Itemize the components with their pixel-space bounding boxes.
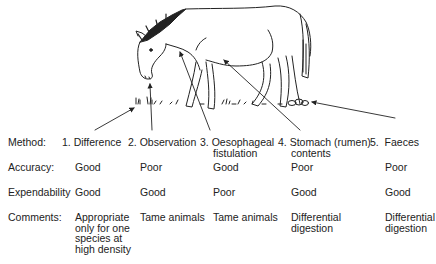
method-4-heading-line2: contents — [291, 148, 331, 159]
arrow-oesophageal — [180, 52, 210, 130]
method-5-comment: Differentialdigestion — [385, 212, 435, 233]
horse-drawing — [136, 6, 311, 109]
method-3-heading-line2: fistulation — [213, 148, 257, 159]
method-5-heading: 5. Faeces — [370, 137, 419, 148]
method-arrows — [95, 52, 395, 130]
arrow-observation — [150, 84, 152, 130]
row-label-expendability: Expendability — [8, 187, 70, 198]
method-4-expendability: Good — [291, 187, 317, 198]
method-2-comment: Tame animals — [140, 212, 205, 223]
row-label-accuracy: Accuracy: — [8, 162, 54, 173]
method-1-heading: 1. Difference — [62, 137, 121, 148]
method-3-accuracy: Good — [213, 162, 239, 173]
arrow-difference — [95, 108, 134, 130]
method-5-accuracy: Poor — [385, 162, 407, 173]
row-label-comments: Comments: — [8, 212, 62, 223]
horse-illustration — [0, 0, 436, 264]
method-4-comment: Differentialdigestion — [291, 212, 341, 233]
method-2-expendability: Good — [140, 187, 166, 198]
method-2-accuracy: Poor — [140, 162, 162, 173]
row-label-method: Method: — [8, 137, 46, 148]
faeces-drawing — [288, 99, 309, 106]
arrow-faeces — [312, 102, 395, 118]
method-1-expendability: Good — [75, 187, 101, 198]
method-5-expendability: Good — [385, 187, 411, 198]
method-4-accuracy: Poor — [291, 162, 313, 173]
method-2-heading: 2. Observation — [128, 137, 196, 148]
method-1-accuracy: Good — [75, 162, 101, 173]
method-3-expendability: Poor — [213, 187, 235, 198]
method-3-comment: Tame animals — [213, 212, 278, 223]
method-1-comment: Appropriateonly for onespecies athigh de… — [75, 212, 131, 254]
